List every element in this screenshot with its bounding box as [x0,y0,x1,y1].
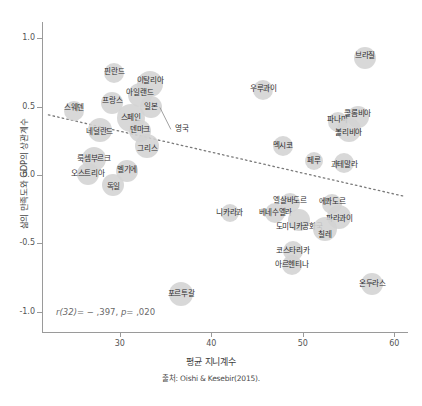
scatter-chart-figure: 삶의 만족도와 GDP의 상관계수 1.00.50.0-0.5-1.0 3040… [0,0,422,406]
x-tick [120,332,121,337]
source-caption: 출처: Oishi & Kesebir(2015). [0,372,422,383]
annotation-p-value: = ,020 [126,307,155,317]
y-tick [37,107,42,108]
data-point-label: 페루 [307,157,320,165]
y-tick-label: 0.5 [10,102,35,111]
data-point-label: 브라질 [355,52,375,60]
data-point-label: 코스타리카 [276,247,310,255]
data-point-label: 독일 [107,183,120,191]
data-point-label: 니카라과 [216,209,243,217]
x-axis-label: 평균 지니계수 [0,355,422,368]
data-point-label: 포르투갈 [168,290,195,298]
y-tick [37,175,42,176]
x-tick-label: 50 [288,339,318,348]
y-axis-line [42,22,43,332]
x-axis-line [42,332,408,333]
data-point-label: 우루과이 [250,85,277,93]
data-point-label: 아르헨티나 [275,261,309,269]
annotation-r: r(32) [56,307,77,317]
data-point-label: 스웨덴 [64,104,84,112]
y-tick-label: -0.5 [10,238,35,247]
annotation-r-value: = − ,397, [77,307,118,317]
y-tick [37,38,42,39]
data-point-label: 볼리비아 [335,129,362,137]
y-tick-label: 0.0 [10,170,35,179]
correlation-annotation: r(32)= − ,397, p= ,020 [56,307,155,317]
data-point-label: 온두라스 [359,280,386,288]
data-point-label: 핀란드 [104,68,124,76]
data-point-label: 영국 [175,125,188,133]
data-point-label: 프랑스 [102,97,122,105]
y-tick [37,243,42,244]
data-point-label: 칠레 [318,231,331,239]
data-point-label: 과테말라 [331,161,358,169]
y-tick-label: 1.0 [10,33,35,42]
data-point-label: 오스트리아 [71,170,105,178]
data-point-label: 벨기에 [117,166,137,174]
data-point-label: 룩셈부르크 [77,155,111,163]
x-tick [303,332,304,337]
x-tick-label: 60 [379,339,409,348]
data-point-label: 멕시코 [273,142,293,150]
data-point-label: 네덜란드 [86,128,113,136]
data-point-label: 베네수엘라 [259,209,293,217]
data-point-label: 그리스 [137,145,157,153]
data-point-label: 일본 [144,103,157,111]
y-tick-label: -1.0 [10,307,35,316]
x-tick [211,332,212,337]
data-point-label: 덴마크 [130,126,150,134]
x-tick-label: 30 [105,339,135,348]
x-tick [394,332,395,337]
y-tick [37,312,42,313]
x-tick-label: 40 [196,339,226,348]
data-point-label: 콜롬비아 [344,110,371,118]
